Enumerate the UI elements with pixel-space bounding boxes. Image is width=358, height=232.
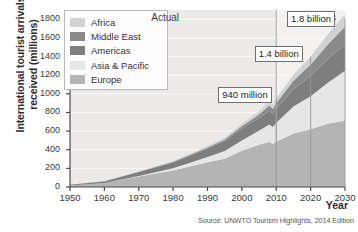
callout-940-million: 940 million xyxy=(218,87,271,103)
x-tick-1990: 1990 xyxy=(191,192,225,203)
chart-figure: International tourist arrivals received … xyxy=(0,0,358,232)
legend-item-middle-east: Middle East xyxy=(70,29,167,43)
y-tick-0: 0 xyxy=(30,181,60,191)
x-tick-2020: 2020 xyxy=(294,192,328,203)
x-tick-1970: 1970 xyxy=(122,192,156,203)
y-tick-1000: 1000 xyxy=(30,88,60,98)
legend-label-asia-pacific: Asia & Pacific xyxy=(91,60,149,71)
legend-label-africa: Africa xyxy=(91,17,115,28)
y-tick-1800: 1800 xyxy=(30,13,60,23)
x-tick-1980: 1980 xyxy=(156,192,190,203)
y-tick-1600: 1600 xyxy=(30,32,60,42)
y-tick-600: 600 xyxy=(30,125,60,135)
period-label-actual: Actual xyxy=(151,12,179,23)
legend-label-middle-east: Middle East xyxy=(91,31,141,42)
x-tick-1950: 1950 xyxy=(53,192,87,203)
legend-swatch-africa xyxy=(70,18,85,27)
callout-1-4-billion: 1.4 billion xyxy=(255,46,303,62)
x-tick-2030: 2030 xyxy=(328,192,358,203)
legend-label-europe: Europe xyxy=(91,74,122,85)
x-tick-2000: 2000 xyxy=(225,192,259,203)
legend-item-asia-pacific: Asia & Pacific xyxy=(70,58,167,72)
y-tick-400: 400 xyxy=(30,144,60,154)
source-note: Source: UNWTO Tourism Highlights, 2014 E… xyxy=(198,216,354,225)
legend-swatch-asia-pacific xyxy=(70,61,85,70)
callout-1-8-billion: 1.8 billion xyxy=(287,11,335,27)
y-tick-1200: 1200 xyxy=(30,69,60,79)
y-tick-1400: 1400 xyxy=(30,51,60,61)
legend-item-americas: Americas xyxy=(70,44,167,58)
x-tick-1960: 1960 xyxy=(87,192,121,203)
legend-swatch-europe xyxy=(70,75,85,84)
y-tick-200: 200 xyxy=(30,162,60,172)
legend-label-americas: Americas xyxy=(91,45,131,56)
x-tick-2010: 2010 xyxy=(259,192,293,203)
legend-swatch-middle-east xyxy=(70,32,85,41)
y-tick-800: 800 xyxy=(30,106,60,116)
legend-item-europe: Europe xyxy=(70,73,167,87)
legend-swatch-americas xyxy=(70,46,85,55)
